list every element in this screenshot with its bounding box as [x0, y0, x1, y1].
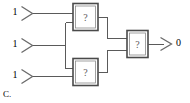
input-3-group[interactable] — [22, 70, 74, 84]
input-2-group[interactable] — [22, 23, 74, 69]
input-2-label: 1 — [9, 38, 21, 49]
output-1-group[interactable] — [148, 38, 172, 51]
gate-bottom-label: ? — [83, 67, 88, 78]
input-1-label: 1 — [9, 6, 21, 17]
logic-circuit-figure: ? ? ? 1 1 1 0 C. — [0, 0, 190, 103]
gate-output[interactable]: ? — [127, 31, 148, 58]
wire-path — [98, 51, 127, 73]
figure-caption: C. — [3, 89, 11, 99]
input-3-label: 1 — [9, 69, 21, 80]
buffer-arrow-icon — [22, 7, 33, 21]
wire-path — [98, 17, 127, 39]
gate-top-label: ? — [83, 12, 88, 23]
wire-gate-bottom-to-gate-output — [98, 51, 127, 73]
gate-top[interactable]: ? — [73, 4, 98, 31]
input-1-group[interactable] — [22, 7, 74, 21]
circuit-canvas: ? ? ? — [0, 0, 190, 103]
buffer-arrow-icon — [22, 70, 33, 84]
gate-output-label: ? — [135, 39, 140, 50]
gate-bottom[interactable]: ? — [73, 59, 98, 86]
output-1-label: 0 — [176, 37, 188, 48]
buffer-arrow-icon — [22, 39, 33, 53]
wire-gate-top-to-gate-output — [98, 17, 127, 39]
